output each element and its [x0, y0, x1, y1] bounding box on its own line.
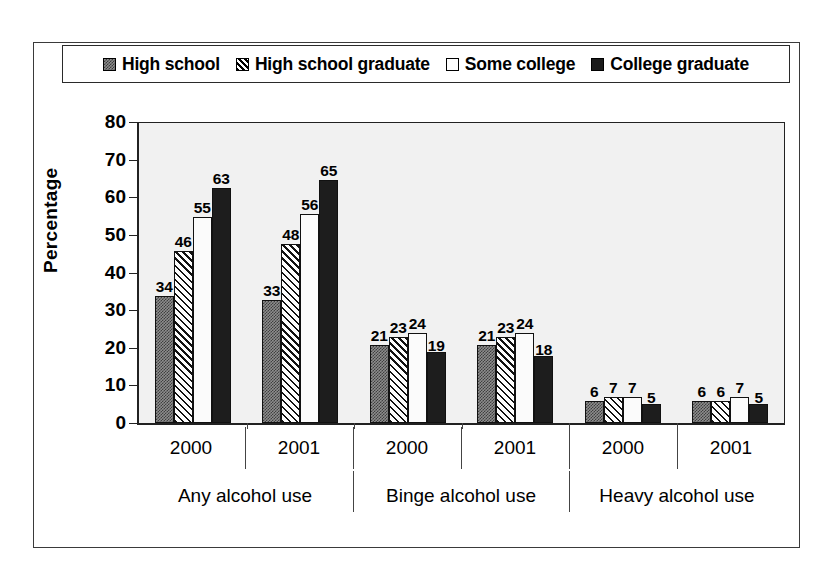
year-separator — [677, 427, 678, 469]
bar-value-label: 24 — [409, 315, 426, 333]
bar: 34 — [155, 296, 174, 423]
bar-value-label: 5 — [754, 389, 763, 407]
x-axis-category-label: Heavy alcohol use — [569, 471, 785, 520]
legend-label-college-graduate: College graduate — [610, 54, 749, 75]
bar: 19 — [427, 352, 446, 423]
bar-groups: 3446556333485665212324192123241867756675 — [139, 122, 784, 423]
bar: 6 — [711, 401, 730, 423]
legend-item-high-school-graduate: High school graduate — [236, 54, 430, 75]
bar: 48 — [281, 244, 300, 423]
year-separator — [569, 427, 570, 469]
y-axis-tick — [129, 273, 137, 274]
bar: 55 — [193, 217, 212, 423]
x-axis-year-label: 2000 — [353, 425, 461, 471]
chart-screenshot: High school High school graduate Some co… — [0, 0, 836, 571]
bar: 46 — [174, 251, 193, 423]
legend-label-some-college: Some college — [465, 54, 575, 75]
bar-value-label: 55 — [194, 199, 211, 217]
bar-value-label: 56 — [301, 196, 318, 214]
bar-value-label: 7 — [628, 379, 637, 397]
category-separator — [569, 471, 570, 512]
legend-swatch-white-icon — [446, 58, 459, 71]
y-axis-tick — [129, 122, 137, 123]
bar-value-label: 46 — [175, 233, 192, 251]
bar-value-label: 21 — [371, 327, 388, 345]
year-separator — [245, 427, 246, 469]
bar: 24 — [408, 333, 427, 423]
legend-swatch-hatch-icon — [236, 58, 249, 71]
bar: 6 — [585, 401, 604, 423]
bar: 7 — [730, 397, 749, 423]
year-separator — [353, 427, 354, 469]
bar-group: 34465563 — [139, 122, 247, 423]
legend-label-high-school-graduate: High school graduate — [255, 54, 430, 75]
bar-value-label: 5 — [647, 389, 656, 407]
y-axis-tick — [129, 385, 137, 386]
x-axis-year-label: 2000 — [137, 425, 245, 471]
chart-legend: High school High school graduate Some co… — [62, 45, 790, 83]
bar-value-label: 18 — [535, 341, 552, 359]
y-axis-tick — [129, 160, 137, 161]
bar: 33 — [262, 300, 281, 423]
bar: 24 — [515, 333, 534, 423]
x-axis-category-row: Any alcohol useBinge alcohol useHeavy al… — [137, 471, 785, 520]
bar: 65 — [319, 180, 338, 423]
bar-value-label: 24 — [516, 315, 533, 333]
y-axis-tick-label: 40 — [105, 262, 126, 284]
bar-value-label: 7 — [735, 379, 744, 397]
x-axis-year-label: 2001 — [677, 425, 785, 471]
bar-value-label: 6 — [590, 383, 599, 401]
bar: 56 — [300, 214, 319, 423]
y-axis-tick-label: 0 — [115, 412, 126, 434]
bar-value-label: 63 — [213, 170, 230, 188]
y-axis-tick-label: 50 — [105, 224, 126, 246]
year-separator — [461, 427, 462, 469]
y-axis-tick-label: 10 — [105, 374, 126, 396]
plot-area: 80706050403020100 3446556333485665212324… — [137, 122, 785, 425]
bar: 6 — [692, 401, 711, 423]
bar-value-label: 33 — [263, 282, 280, 300]
bar-value-label: 21 — [478, 327, 495, 345]
bar-value-label: 23 — [390, 319, 407, 337]
x-axis-year-label: 2001 — [245, 425, 353, 471]
bar-value-label: 65 — [320, 162, 337, 180]
legend-item-high-school: High school — [103, 54, 220, 75]
bar-group: 21232418 — [462, 122, 570, 423]
bar: 21 — [370, 345, 389, 423]
bar-value-label: 34 — [156, 278, 173, 296]
y-axis-tick-label: 20 — [105, 337, 126, 359]
y-axis-tick — [129, 348, 137, 349]
bar-group: 33485665 — [247, 122, 355, 423]
y-axis-tick-label: 70 — [105, 149, 126, 171]
legend-item-some-college: Some college — [446, 54, 575, 75]
bar-value-label: 6 — [697, 383, 706, 401]
y-axis-tick-label: 30 — [105, 299, 126, 321]
x-axis-year-label: 2000 — [569, 425, 677, 471]
bar-value-label: 48 — [282, 226, 299, 244]
y-axis-tick — [129, 310, 137, 311]
bar: 23 — [496, 337, 515, 423]
x-axis-year-row: 200020012000200120002001 — [137, 425, 785, 471]
y-axis-tick-label: 80 — [105, 111, 126, 133]
x-axis: 200020012000200120002001 Any alcohol use… — [137, 425, 785, 520]
bar: 21 — [477, 345, 496, 423]
bar-value-label: 23 — [497, 319, 514, 337]
y-axis-tick — [129, 235, 137, 236]
y-axis-title: Percentage — [40, 168, 62, 273]
x-axis-year-label: 2001 — [461, 425, 569, 471]
legend-item-college-graduate: College graduate — [591, 54, 749, 75]
bar-value-label: 19 — [428, 337, 445, 355]
legend-swatch-black-icon — [591, 58, 604, 71]
bar-group: 6775 — [569, 122, 677, 423]
bar: 23 — [389, 337, 408, 423]
bar: 5 — [642, 404, 661, 423]
y-axis-tick — [129, 423, 137, 424]
bar: 5 — [749, 404, 768, 423]
bar-group: 6675 — [677, 122, 785, 423]
legend-label-high-school: High school — [122, 54, 220, 75]
bar-group: 21232419 — [354, 122, 462, 423]
y-axis-tick — [129, 197, 137, 198]
x-axis-category-label: Any alcohol use — [137, 471, 353, 520]
category-separator — [353, 471, 354, 512]
bar: 63 — [212, 188, 231, 423]
